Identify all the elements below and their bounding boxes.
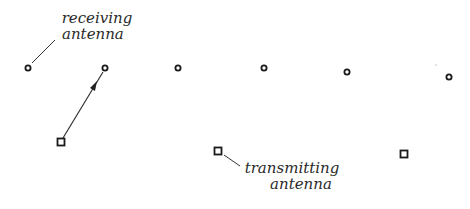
- receiving-antenna-icon: [175, 65, 180, 70]
- receiving-antenna-icon: [25, 65, 30, 70]
- transmitting-antenna-icon: [401, 151, 408, 158]
- speck: [435, 64, 436, 65]
- receiving-antenna-icon: [446, 74, 451, 79]
- arrowhead-icon: [90, 81, 97, 91]
- signal-arrow: [63, 72, 103, 138]
- transmitting-label-line1: transmitting: [240, 160, 344, 176]
- receiving-antenna-label: receiving antenna: [60, 10, 134, 42]
- receiving-label-line1: receiving: [60, 10, 134, 26]
- antenna-diagram: receiving antenna transmitting antenna: [0, 0, 470, 209]
- transmitting-label-leader-line: [224, 155, 240, 166]
- transmitting-antenna-icon: [58, 139, 65, 146]
- transmitting-antenna-icon: [215, 148, 222, 155]
- receiving-antennas: [25, 65, 451, 79]
- receiving-antenna-icon: [344, 69, 349, 74]
- receiving-label-leader-line: [32, 40, 55, 63]
- transmitting-antennas: [58, 139, 408, 158]
- receiving-antenna-icon: [102, 65, 107, 70]
- transmitting-label-line2: antenna: [240, 176, 344, 192]
- transmitting-antenna-label: transmitting antenna: [240, 160, 344, 192]
- receiving-label-line2: antenna: [60, 26, 134, 42]
- receiving-antenna-icon: [261, 65, 266, 70]
